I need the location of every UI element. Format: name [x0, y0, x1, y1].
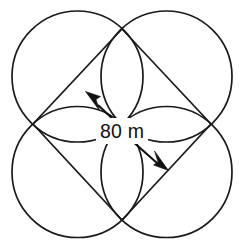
figure-container: 80 m [0, 0, 243, 249]
dimension-label: 80 m [100, 120, 144, 142]
geometry-diagram: 80 m [0, 0, 243, 249]
